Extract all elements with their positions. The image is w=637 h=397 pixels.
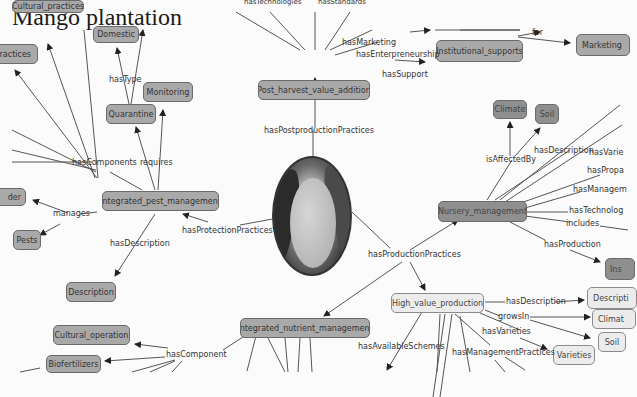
node-label: Varieties bbox=[557, 351, 592, 360]
node-label: Integrated_nutrient_management bbox=[240, 324, 370, 333]
node-soil-right[interactable]: Soil bbox=[598, 332, 626, 352]
node-integrated-pest-management[interactable]: Integrated_pest_management bbox=[102, 191, 219, 211]
node-domestic[interactable]: Domestic bbox=[93, 26, 139, 43]
node-label: Institutional_supports bbox=[436, 47, 523, 56]
edge-label: hasProtectionPractices bbox=[182, 226, 273, 235]
node-label: Pests bbox=[17, 236, 38, 245]
node-label: Nursery_management bbox=[438, 207, 527, 216]
node-der[interactable]: der bbox=[0, 188, 26, 206]
edge-label: growsIn bbox=[498, 312, 529, 321]
edge-label: isAffectedBy bbox=[486, 155, 536, 164]
node-label: Climate bbox=[495, 105, 526, 114]
node-biofertilizers[interactable]: Biofertilizers bbox=[46, 355, 101, 373]
node-cultural-practices[interactable]: Cultural_practices bbox=[12, 0, 84, 13]
node-practices[interactable]: ractices bbox=[0, 44, 38, 64]
node-label: Soil bbox=[605, 338, 619, 347]
node-label: Biofertilizers bbox=[48, 360, 98, 369]
edge-label: hasPropa bbox=[587, 166, 624, 175]
node-label: Description bbox=[68, 288, 114, 297]
node-varieties[interactable]: Varieties bbox=[553, 345, 595, 365]
node-post-harvest-value-addition[interactable]: Post_harvest_value_addition bbox=[258, 80, 370, 100]
edge-label: hasTechnologies bbox=[244, 0, 301, 6]
node-ins[interactable]: Ins bbox=[605, 258, 635, 280]
node-label: Climat bbox=[598, 315, 624, 324]
node-description-left[interactable]: Description bbox=[66, 282, 116, 302]
edge-label: hasProduction bbox=[544, 240, 601, 249]
edge-label: hasVarieties bbox=[482, 327, 531, 336]
edge-label: hasProductionPractices bbox=[368, 250, 461, 259]
node-label: Quarantine bbox=[109, 110, 154, 119]
node-label: Cultural_operation bbox=[55, 331, 129, 340]
edge-label: hasEnterpreneurship bbox=[356, 50, 440, 59]
edge-label: hasType bbox=[109, 75, 142, 84]
node-label: High_value_production bbox=[392, 299, 483, 308]
edge-label: hasComponent bbox=[166, 350, 227, 359]
node-monitoring[interactable]: Monitoring bbox=[143, 82, 193, 102]
node-climate-top[interactable]: Climate bbox=[493, 100, 527, 119]
node-quarantine[interactable]: Quarantine bbox=[106, 104, 156, 124]
node-cultural-operation[interactable]: Cultural_operation bbox=[53, 325, 130, 345]
edge-label: hasVarie bbox=[589, 148, 623, 157]
node-label: Monitoring bbox=[147, 88, 190, 97]
mango-image[interactable] bbox=[272, 156, 352, 276]
edge-label: manages bbox=[53, 209, 90, 218]
node-label: Marketing bbox=[582, 41, 622, 50]
node-description-right[interactable]: Descripti bbox=[587, 287, 637, 309]
edge-label: hasStandards bbox=[318, 0, 366, 6]
node-label: Cultural_practices bbox=[12, 2, 84, 11]
node-label: Descripti bbox=[593, 294, 629, 303]
node-climate-right[interactable]: Climat bbox=[592, 309, 636, 329]
node-label: Integrated_pest_management bbox=[102, 197, 219, 206]
edge-label: hasManagem bbox=[573, 185, 627, 194]
edge-label: for bbox=[532, 28, 543, 37]
node-integrated-nutrient-management[interactable]: Integrated_nutrient_management bbox=[240, 318, 370, 338]
node-label: Post_harvest_value_addition bbox=[258, 86, 370, 95]
edge-label: hasDescription bbox=[534, 146, 594, 155]
edge-label: hasDescription bbox=[110, 239, 170, 248]
node-label: Domestic bbox=[97, 30, 135, 39]
node-high-value-production[interactable]: High_value_production bbox=[391, 293, 484, 313]
node-label: Soil bbox=[540, 110, 554, 119]
edge-label: hasSupport bbox=[382, 70, 428, 79]
mango-fruit-shape bbox=[290, 178, 336, 268]
edge-label: hasComponents bbox=[72, 158, 137, 167]
node-label: ractices bbox=[0, 50, 31, 59]
edge-label: includes bbox=[566, 219, 599, 228]
edge-label: hasAvailableSchemes bbox=[358, 342, 445, 351]
node-marketing[interactable]: Marketing bbox=[576, 34, 630, 56]
node-nursery-management[interactable]: Nursery_management bbox=[438, 201, 527, 222]
edge-label: hasManagementPractices bbox=[452, 348, 555, 357]
node-label: Ins bbox=[610, 265, 622, 274]
node-soil-top[interactable]: Soil bbox=[535, 104, 559, 124]
node-label: der bbox=[8, 193, 21, 202]
edge-label: requires bbox=[140, 158, 173, 167]
edge-label: hasMarketing bbox=[342, 38, 396, 47]
edge-label: hasDescription bbox=[506, 297, 566, 306]
edge-label: hasPostproductionPractices bbox=[264, 126, 374, 135]
node-pests[interactable]: Pests bbox=[13, 230, 41, 250]
node-institutional-supports[interactable]: Institutional_supports bbox=[436, 40, 523, 62]
edge-label: hasTechnolog bbox=[569, 206, 623, 215]
